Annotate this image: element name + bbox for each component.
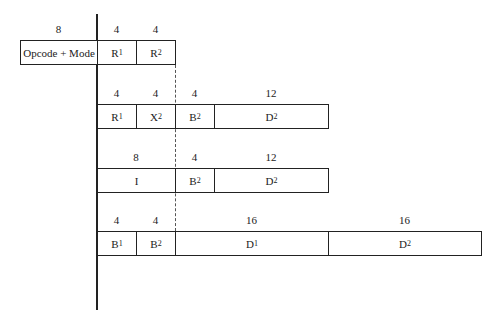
field-name: I <box>135 175 139 187</box>
field-box: R1 <box>97 40 137 65</box>
field-subscript: 1 <box>119 48 123 57</box>
field-subscript: 2 <box>407 239 411 248</box>
field-name: D <box>266 175 274 187</box>
field-name: B <box>111 238 118 250</box>
field-box: X2 <box>136 104 176 129</box>
field-name: B <box>150 238 157 250</box>
bit-width-label: 4 <box>97 87 136 99</box>
field-name: B <box>189 175 196 187</box>
field-subscript: 1 <box>119 239 123 248</box>
field-box: I <box>97 168 176 193</box>
field-subscript: 2 <box>273 176 277 185</box>
bit-width-label: 4 <box>136 87 175 99</box>
field-name: D <box>399 238 407 250</box>
field-name: R <box>111 47 118 59</box>
field-name: R <box>111 111 118 123</box>
bit-width-label: 8 <box>20 23 97 35</box>
field-box: B2 <box>136 231 176 256</box>
bit-width-label: 4 <box>136 23 175 35</box>
field-subscript: 1 <box>254 239 258 248</box>
field-name: X <box>150 111 158 123</box>
bit-width-label: 12 <box>214 151 328 163</box>
field-subscript: 1 <box>119 112 123 121</box>
field-name: Opcode + Mode <box>23 47 95 59</box>
field-subscript: 2 <box>158 112 162 121</box>
bit-width-label: 4 <box>175 87 214 99</box>
bit-width-label: 12 <box>214 87 328 99</box>
field-box: D2 <box>328 231 482 256</box>
bit-width-label: 4 <box>97 214 136 226</box>
field-name: D <box>246 238 254 250</box>
field-box: Opcode + Mode <box>20 40 98 65</box>
field-box: D2 <box>214 104 329 129</box>
field-name: R <box>150 47 157 59</box>
field-box: B1 <box>97 231 137 256</box>
field-name: B <box>189 111 196 123</box>
bit-width-label: 4 <box>175 151 214 163</box>
bit-width-label: 4 <box>136 214 175 226</box>
bit-width-label: 8 <box>97 151 175 163</box>
field-subscript: 2 <box>197 176 201 185</box>
field-name: D <box>266 111 274 123</box>
field-box: B2 <box>175 104 215 129</box>
bit-width-label: 16 <box>175 214 328 226</box>
field-subscript: 2 <box>158 239 162 248</box>
field-box: R1 <box>97 104 137 129</box>
field-subscript: 2 <box>158 48 162 57</box>
field-box: D2 <box>214 168 329 193</box>
bit-width-label: 4 <box>97 23 136 35</box>
field-subscript: 2 <box>273 112 277 121</box>
field-box: D1 <box>175 231 329 256</box>
field-subscript: 2 <box>197 112 201 121</box>
bit-width-label: 16 <box>328 214 481 226</box>
field-box: B2 <box>175 168 215 193</box>
field-box: R2 <box>136 40 176 65</box>
